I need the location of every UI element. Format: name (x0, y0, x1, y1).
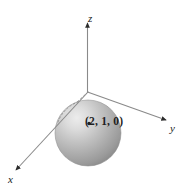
x-axis-label: x (8, 174, 13, 185)
shaded-sphere (55, 100, 121, 166)
point-coordinate-label: (2, 1, 0) (85, 115, 123, 127)
y-axis-label: y (170, 123, 175, 134)
sphere-coordinate-diagram: z y x (2, 1, 0) (0, 0, 189, 195)
z-axis-label: z (88, 13, 92, 24)
diagram-canvas (0, 0, 189, 195)
